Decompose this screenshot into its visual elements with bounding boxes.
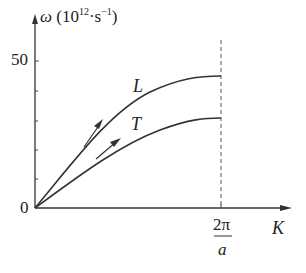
y-unit-exp: 12 [79, 6, 89, 17]
curve-T [35, 118, 221, 208]
y-tick-label-50: 50 [11, 50, 28, 70]
dispersion-chart [0, 0, 306, 273]
y-unit-exp2: −1 [101, 6, 112, 17]
x-tick-denominator: a [218, 240, 227, 260]
origin-label: 0 [20, 198, 29, 218]
x-tick-numerator: 2π [213, 215, 230, 235]
curve-L-label: L [133, 76, 143, 97]
y-unit-open: (10 [56, 7, 79, 26]
y-axis-arrow-icon [32, 14, 38, 24]
y-axis-label: ω (1012·s−1) [40, 6, 118, 27]
y-unit-close: ) [112, 7, 118, 26]
y-symbol: ω [40, 7, 52, 26]
curve-T-label: T [131, 114, 141, 135]
L-tangent-arrow-icon [94, 119, 103, 129]
y-unit-mid: ·s [89, 7, 101, 26]
x-axis-label: K [272, 218, 284, 239]
x-axis-arrow-icon [280, 205, 292, 211]
